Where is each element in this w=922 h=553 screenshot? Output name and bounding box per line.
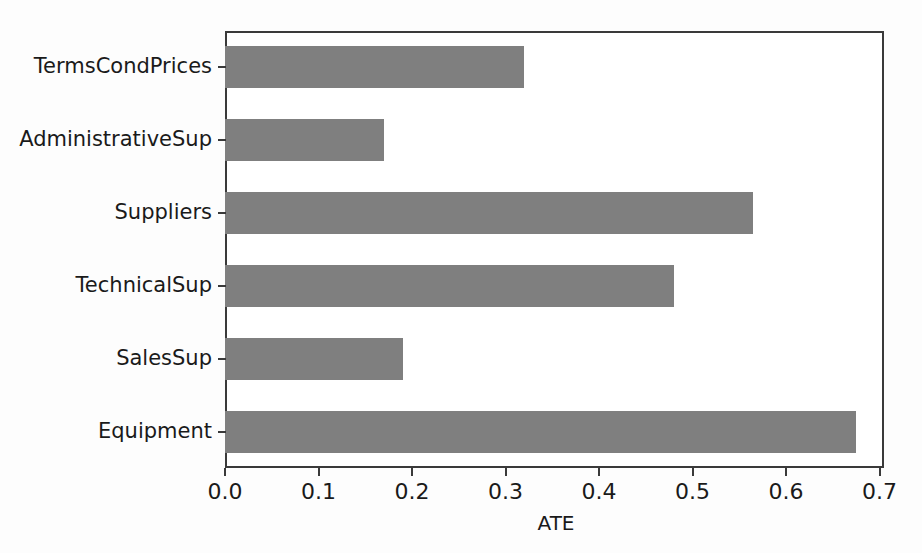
- y-tick-mark: [218, 285, 226, 287]
- x-axis-title: ATE: [0, 513, 922, 533]
- x-axis-title-text: ATE: [538, 511, 575, 535]
- chart-screenshot: TermsCondPricesAdministrativeSupSupplier…: [0, 0, 922, 553]
- x-tick-mark: [411, 468, 413, 476]
- x-tick-mark: [785, 468, 787, 476]
- x-tick-mark: [598, 468, 600, 476]
- y-tick-label-suppliers: Suppliers: [0, 202, 212, 223]
- x-tick-mark: [318, 468, 320, 476]
- x-tick-mark: [692, 468, 694, 476]
- x-tick-label-0.7: 0.7: [862, 481, 897, 503]
- x-tick-label-0.3: 0.3: [488, 481, 523, 503]
- y-tick-label-administrativesup: AdministrativeSup: [0, 129, 212, 150]
- bar-equipment: [225, 411, 856, 453]
- x-tick-label-0.6: 0.6: [769, 481, 804, 503]
- x-tick-mark: [879, 468, 881, 476]
- x-tick-label-0.4: 0.4: [582, 481, 617, 503]
- x-tick-mark: [224, 468, 226, 476]
- x-tick-mark: [505, 468, 507, 476]
- y-tick-mark: [218, 358, 226, 360]
- bar-termscondprices: [225, 46, 524, 88]
- y-tick-mark: [218, 66, 226, 68]
- y-tick-label-technicalsup: TechnicalSup: [0, 275, 212, 296]
- y-tick-label-termscondprices: TermsCondPrices: [0, 56, 212, 77]
- y-tick-label-salessup: SalesSup: [0, 348, 212, 369]
- y-tick-mark: [218, 139, 226, 141]
- y-tick-label-equipment: Equipment: [0, 421, 212, 442]
- bar-salessup: [225, 338, 403, 380]
- y-axis-labels: TermsCondPricesAdministrativeSupSupplier…: [0, 31, 212, 468]
- y-tick-mark: [218, 212, 226, 214]
- bar-technicalsup: [225, 265, 674, 307]
- bars-layer: [225, 31, 884, 468]
- bar-suppliers: [225, 192, 753, 234]
- x-tick-label-0.1: 0.1: [301, 481, 336, 503]
- x-tick-label-0.0: 0.0: [208, 481, 243, 503]
- x-tick-label-0.2: 0.2: [395, 481, 430, 503]
- bar-administrativesup: [225, 119, 384, 161]
- x-tick-label-0.5: 0.5: [675, 481, 710, 503]
- y-tick-mark: [218, 431, 226, 433]
